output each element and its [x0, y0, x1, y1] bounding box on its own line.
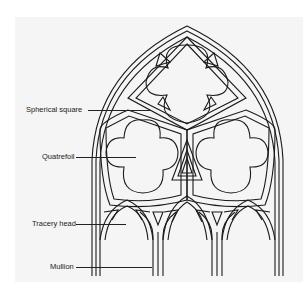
leader-line-spherical-square — [88, 110, 150, 111]
right-quatrefoil — [196, 120, 268, 193]
left-quatrefoil-frame — [100, 110, 187, 207]
mullions — [140, 212, 235, 276]
label-quatrefoil: Quatrefoil — [42, 152, 75, 161]
label-mullion: Mullion — [50, 262, 74, 271]
leader-line-quatrefoil — [76, 157, 136, 158]
leader-line-mullion — [76, 267, 152, 268]
tracery-window-drawing — [0, 0, 308, 296]
leader-line-tracery-head — [76, 224, 126, 225]
spandrel-details — [156, 53, 218, 110]
label-tracery-head: Tracery head — [32, 219, 76, 228]
tracery-heads — [100, 196, 275, 240]
label-spherical-square: Spherical square — [26, 105, 82, 114]
right-quatrefoil-frame — [187, 110, 275, 207]
